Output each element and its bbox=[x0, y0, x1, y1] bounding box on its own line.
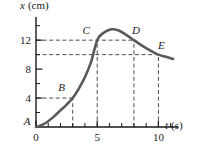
data-curve-position bbox=[36, 29, 173, 127]
y-axis-unit: (cm) bbox=[28, 0, 49, 11]
y-axis-variable: x bbox=[20, 0, 25, 11]
x-axis-tick-label: 0 bbox=[33, 131, 39, 143]
point-label-a: A bbox=[23, 115, 31, 127]
point-label-d: D bbox=[131, 24, 140, 36]
x-axis-tick-label: 5 bbox=[94, 131, 100, 143]
x-axis-variable: t bbox=[165, 119, 168, 131]
y-axis-tick-label: 8 bbox=[26, 63, 32, 75]
chart-layers: 05104812ABCDE bbox=[20, 17, 178, 143]
point-label-e: E bbox=[157, 39, 165, 51]
y-axis-tick-label: 12 bbox=[20, 34, 31, 46]
point-label-c: C bbox=[83, 24, 91, 36]
y-axis-tick-label: 4 bbox=[26, 92, 32, 104]
figure-container: 05104812ABCDE x(cm) t(s) bbox=[0, 0, 197, 146]
x-axis-unit: (s) bbox=[171, 119, 183, 131]
x-axis-label: t(s) bbox=[165, 119, 183, 131]
point-label-b: B bbox=[58, 81, 65, 93]
y-axis-label: x(cm) bbox=[20, 0, 49, 11]
x-axis-tick-label: 10 bbox=[153, 131, 165, 143]
